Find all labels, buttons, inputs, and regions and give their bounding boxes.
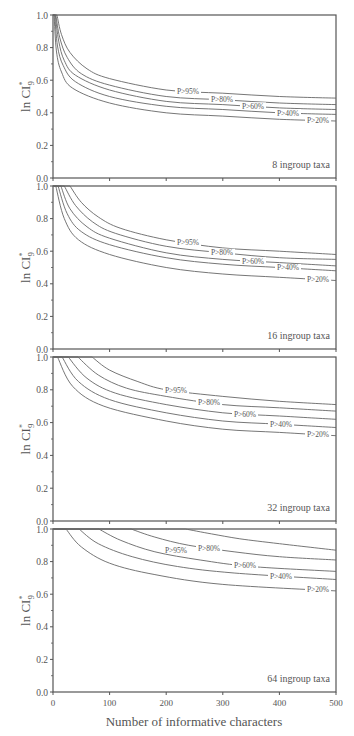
panel-annotation: 64 ingroup taxa [267, 673, 330, 684]
y-tick-label: 0.4 [36, 451, 48, 461]
panel-3: 0.00.20.40.60.81.0ln CI*9P>95%P>80%P>60%… [18, 353, 336, 527]
x-axis-label: Number of informative characters [106, 714, 283, 729]
y-axis-label: ln CI*9 [18, 423, 36, 454]
y-tick-label: 1.0 [36, 182, 48, 192]
panel-annotation: 16 ingroup taxa [267, 330, 330, 341]
y-tick-label: 0.4 [36, 622, 48, 632]
curve-label: P>60% [234, 410, 256, 419]
panel-annotation: 8 ingroup taxa [272, 159, 330, 170]
y-tick-label: 0.2 [36, 484, 48, 494]
x-axis: 0100200300400500 [51, 698, 344, 708]
curve-label: P>20% [307, 275, 329, 284]
curve-label: P>95% [177, 87, 199, 96]
y-axis-label: ln CI*9 [18, 595, 36, 626]
plot-frame [53, 15, 336, 178]
curve-label: P>40% [277, 109, 299, 118]
curve-label: P>80% [198, 544, 220, 553]
curve-label: P>60% [234, 561, 256, 570]
y-tick-label: 0.6 [36, 76, 48, 86]
y-tick-label: 1.0 [36, 11, 48, 21]
y-tick-label: 0.4 [36, 108, 48, 118]
y-tick-label: 1.0 [36, 525, 48, 535]
x-tick-label: 200 [159, 698, 173, 708]
curve-label: P>80% [198, 398, 220, 407]
x-tick-label: 0 [51, 698, 56, 708]
curve-label: P>95% [165, 546, 187, 555]
y-tick-label: 0.8 [36, 557, 48, 567]
curve-95pct [57, 15, 336, 98]
curve-label: P>20% [307, 116, 329, 125]
curve-20pct [54, 15, 336, 121]
chart-figure: 0.00.20.40.60.81.0ln CI*9P>95%P>80%P>60%… [0, 0, 354, 736]
y-tick-label: 0.0 [36, 688, 48, 698]
y-tick-label: 0.6 [36, 590, 48, 600]
panel-annotation: 32 ingroup taxa [267, 502, 330, 513]
y-tick-label: 0.2 [36, 312, 48, 322]
y-tick-label: 0.4 [36, 279, 48, 289]
y-tick-label: 0.6 [36, 247, 48, 257]
y-tick-label: 0.8 [36, 214, 48, 224]
y-tick-label: 0.6 [36, 418, 48, 428]
x-tick-label: 400 [273, 698, 287, 708]
curve-label: P>80% [211, 95, 233, 104]
curve-label: P>20% [307, 585, 329, 594]
curve-label: P>40% [277, 263, 299, 272]
curve-60pct [68, 357, 336, 419]
curve-label: P>20% [307, 430, 329, 439]
curve-label: P>40% [270, 572, 292, 581]
curve-label: P>95% [165, 386, 187, 395]
y-tick-label: 0.2 [36, 141, 48, 151]
curve-label: P>40% [270, 420, 292, 429]
curve-80pct [131, 529, 336, 560]
plot-frame [53, 357, 336, 521]
y-tick-label: 0.8 [36, 385, 48, 395]
curve-20pct [58, 357, 337, 436]
x-tick-label: 500 [329, 698, 343, 708]
y-axis-label: ln CI*9 [18, 81, 36, 112]
curve-60pct [61, 186, 336, 266]
chart-panels: 0.00.20.40.60.81.0ln CI*9P>95%P>80%P>60%… [18, 11, 336, 698]
x-tick-label: 100 [103, 698, 117, 708]
y-axis-label: ln CI*9 [18, 252, 36, 283]
curve-label: P>95% [177, 238, 199, 247]
y-tick-label: 0.8 [36, 43, 48, 53]
curve-label: P>80% [211, 248, 233, 257]
panel-4: 0.00.20.40.60.81.0ln CI*9P>95%P>80%P>60%… [18, 525, 336, 698]
x-tick-label: 300 [216, 698, 230, 708]
curve-80pct [64, 186, 336, 259]
curve-label: P>60% [242, 102, 264, 111]
plot-frame [53, 529, 336, 692]
y-tick-label: 0.2 [36, 655, 48, 665]
panel-2: 0.00.20.40.60.81.0ln CI*9P>95%P>80%P>60%… [18, 182, 336, 355]
y-tick-label: 1.0 [36, 353, 48, 363]
panel-1: 0.00.20.40.60.81.0ln CI*9P>95%P>80%P>60%… [18, 11, 336, 184]
curve-40pct [79, 529, 336, 580]
curve-label: P>60% [242, 257, 264, 266]
curve-95pct [70, 186, 336, 255]
